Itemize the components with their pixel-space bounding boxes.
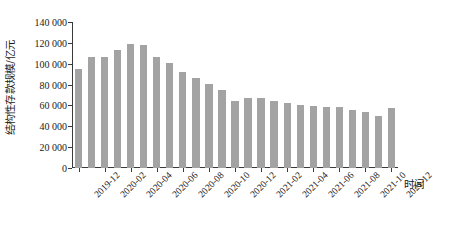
x-axis-tick-label: 2021-08 [353,170,382,199]
bar [362,112,369,168]
bar [297,105,304,168]
bar-series [72,22,398,168]
y-axis-tick-label: 100 000 [35,58,68,69]
y-axis-tick-label: 60 000 [40,100,68,111]
bar [388,108,395,168]
x-axis-tick-label: 2019-12 [92,170,121,199]
bar [75,69,82,168]
y-axis-title: 结构性存款规模/亿元 [0,0,20,175]
bar-chart-figure: 结构性存款规模/亿元 020 00040 00060 00080 000100 … [0,0,456,231]
x-axis-tick-label: 2020-12 [248,170,277,199]
y-axis-tick-mark [68,22,72,23]
y-axis-tick-mark [68,64,72,65]
x-axis-tick-label: 2020-10 [222,170,251,199]
x-axis-title: 时间 [404,176,424,191]
x-axis-tick-labels: 2019-122020-022020-042020-062020-082020-… [72,170,398,226]
bar [310,106,317,168]
y-axis-tick-label: 80 000 [40,79,68,90]
bar [270,101,277,168]
bar [284,103,291,168]
y-axis-tick-mark [68,147,72,148]
y-axis-tick-label: 120 000 [35,37,68,48]
x-axis-tick-label: 2020-06 [170,170,199,199]
bar [153,57,160,168]
x-axis-tick-label: 2020-04 [144,170,173,199]
bar [114,50,121,168]
y-axis-title-text: 结构性存款规模/亿元 [3,40,18,136]
x-axis-tick-label: 2020-02 [118,170,147,199]
y-axis-tick-mark [68,168,72,169]
x-axis-tick-label: 2020-08 [196,170,225,199]
y-axis-tick-mark [68,85,72,86]
y-axis-tick-mark [68,105,72,106]
y-axis-tick-label: 140 000 [35,17,68,28]
bar [192,78,199,168]
bar [349,110,356,168]
bar [140,45,147,168]
x-axis-tick-label: 2021-06 [327,170,356,199]
plot-area [72,22,398,168]
y-axis-tick-label: 40 000 [40,121,68,132]
bar [166,63,173,168]
bar [218,90,225,168]
y-axis-tick-mark [68,43,72,44]
y-axis-tick-label: 0 [62,163,67,174]
bar [375,116,382,168]
bar [244,98,251,168]
bar [127,44,134,168]
bar [88,57,95,168]
bar [231,101,238,168]
y-axis-tick-label: 20 000 [40,142,68,153]
x-axis-tick-label: 2021-02 [274,170,303,199]
y-axis-tick-labels: 020 00040 00060 00080 000100 000120 0001… [18,16,70,168]
bar [179,72,186,168]
bar [101,57,108,168]
bar [323,107,330,168]
bar [257,98,264,168]
x-axis-tick-label: 2021-04 [300,170,329,199]
bar [336,107,343,168]
y-axis-tick-mark [68,126,72,127]
bar [205,84,212,168]
